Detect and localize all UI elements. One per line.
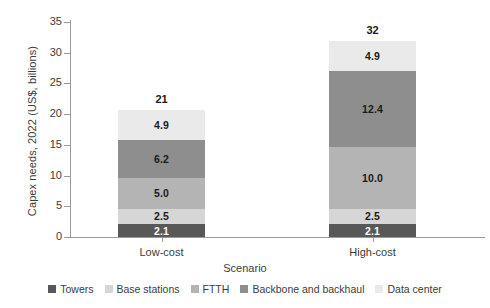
bar-total-label: 21	[155, 93, 167, 105]
y-tick-mark	[64, 206, 70, 207]
x-axis-title: Scenario	[0, 262, 490, 274]
legend-swatch-icon	[240, 285, 248, 293]
bar-segment-ftth: 10.0	[329, 147, 416, 208]
y-axis-line	[70, 20, 71, 238]
y-tick-mark	[64, 145, 70, 146]
y-tick-label: 25	[18, 76, 62, 88]
y-tick-label: 15	[18, 138, 62, 150]
legend-item-towers[interactable]: Towers	[48, 283, 93, 295]
bar-segment-ftth: 5.0	[118, 178, 205, 209]
y-tick-label: 10	[18, 169, 62, 181]
y-tick-label: 30	[18, 46, 62, 58]
legend-label: FTTH	[203, 283, 230, 295]
legend-label: Backbone and backhaul	[252, 283, 364, 295]
legend-swatch-icon	[375, 285, 383, 293]
bar-segment-towers: 2.1	[118, 224, 205, 237]
y-tick-label: 5	[18, 199, 62, 211]
x-tick-label-high-cost: High-cost	[349, 246, 395, 258]
legend-item-ftth[interactable]: FTTH	[191, 283, 230, 295]
legend-swatch-icon	[48, 285, 56, 293]
legend-label: Towers	[60, 283, 93, 295]
bar-segment-data-center: 4.9	[329, 41, 416, 71]
bar-segment-backbone-and-backhaul: 6.2	[118, 140, 205, 178]
stacked-bar-chart: Capex needs, 2022 (US$, billions) 051015…	[0, 0, 490, 308]
bar-total-label: 32	[366, 24, 378, 36]
bar-segment-backbone-and-backhaul: 12.4	[329, 71, 416, 147]
chart-legend: TowersBase stationsFTTHBackbone and back…	[0, 283, 490, 295]
legend-swatch-icon	[191, 285, 199, 293]
bar-high-cost: 2.12.510.012.44.9	[329, 22, 416, 237]
y-tick-mark	[64, 176, 70, 177]
x-tick-mark	[373, 237, 374, 242]
y-tick-mark	[64, 83, 70, 84]
y-tick-label: 35	[18, 15, 62, 27]
bar-segment-base-stations: 2.5	[329, 209, 416, 224]
bar-segment-data-center: 4.9	[118, 110, 205, 140]
y-tick-label: 20	[18, 107, 62, 119]
legend-item-backbone-and-backhaul[interactable]: Backbone and backhaul	[240, 283, 364, 295]
x-tick-label-low-cost: Low-cost	[139, 246, 183, 258]
legend-item-base-stations[interactable]: Base stations	[105, 283, 180, 295]
legend-label: Base stations	[117, 283, 180, 295]
bar-segment-towers: 2.1	[329, 224, 416, 237]
y-tick-mark	[64, 114, 70, 115]
y-tick-mark	[64, 237, 70, 238]
x-axis-line	[70, 237, 485, 238]
legend-item-data-center[interactable]: Data center	[375, 283, 441, 295]
y-tick-label: 0	[18, 230, 62, 242]
y-tick-mark	[64, 53, 70, 54]
y-tick-mark	[64, 22, 70, 23]
legend-swatch-icon	[105, 285, 113, 293]
bar-segment-base-stations: 2.5	[118, 209, 205, 224]
legend-label: Data center	[387, 283, 441, 295]
x-tick-mark	[162, 237, 163, 242]
bar-low-cost: 2.12.55.06.24.9	[118, 22, 205, 237]
